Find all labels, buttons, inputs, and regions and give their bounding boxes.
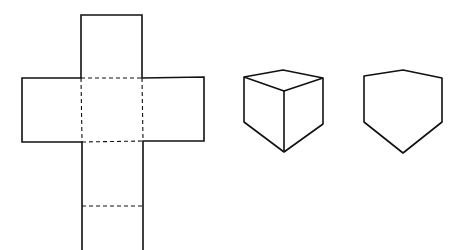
fold-lines [81,78,143,206]
cube-net [22,15,204,250]
cube-outline [364,70,442,153]
net-outline [22,15,204,250]
cube-3d [244,70,323,152]
diagram-canvas [0,0,457,250]
